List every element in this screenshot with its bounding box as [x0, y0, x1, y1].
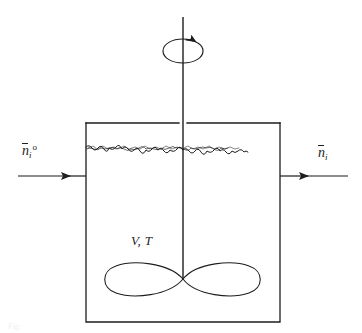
inlet-symbol: n	[22, 144, 29, 158]
inlet-flow-label: nio	[22, 142, 37, 160]
caption-ghost-text: Fig.	[8, 322, 21, 331]
liquid-surface	[86, 145, 248, 154]
diagram-canvas	[0, 0, 362, 333]
reactor-diagram: nio ni V, T Fig.	[0, 0, 362, 333]
outlet-symbol-base: n	[318, 145, 325, 160]
outlet-symbol: n	[318, 146, 325, 160]
outlet-overbar	[318, 145, 324, 146]
inlet-symbol-base: n	[22, 143, 29, 158]
outlet-flow-label: ni	[318, 144, 328, 162]
inlet-superscript: o	[33, 142, 38, 152]
inlet-overbar	[22, 143, 28, 144]
inlet-subscript: i	[29, 150, 32, 160]
outlet-subscript: i	[325, 152, 328, 162]
reactor-contents-label: V, T	[131, 234, 152, 247]
